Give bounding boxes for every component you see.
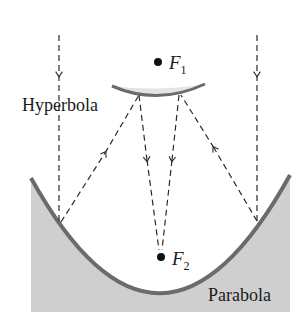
focus-ray-right (172, 95, 179, 160)
parabola-label: Parabola (208, 285, 271, 305)
hyperbola-label: Hyperbola (22, 95, 98, 115)
focus2-point (157, 253, 165, 261)
focus-ray-left (139, 95, 147, 160)
diagram-canvas: F1 F2 Hyperbola Parabola (0, 0, 304, 321)
reflected-ray-right (214, 148, 257, 221)
focus1-label: F1 (168, 52, 187, 77)
diagram: F1 F2 Hyperbola Parabola (0, 0, 304, 321)
focus1-point (154, 58, 162, 66)
focus2-label: F2 (171, 248, 190, 273)
reflected-ray-left (61, 153, 105, 222)
